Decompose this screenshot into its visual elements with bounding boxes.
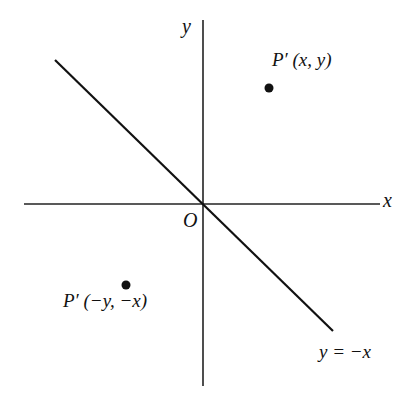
y-axis-label: y [182,16,191,36]
line-label-y-equals-neg-x: y = −x [319,342,371,361]
point-p-prime-neg-y-neg-x [122,281,131,290]
origin-label: O [183,210,197,230]
point-label-p-prime-xy: P′ (x, y) [272,50,332,69]
point-label-p-prime-neg-y-neg-x: P′ (−y, −x) [63,291,147,310]
x-axis-label: x [383,190,392,210]
point-p-prime-xy [265,84,274,93]
